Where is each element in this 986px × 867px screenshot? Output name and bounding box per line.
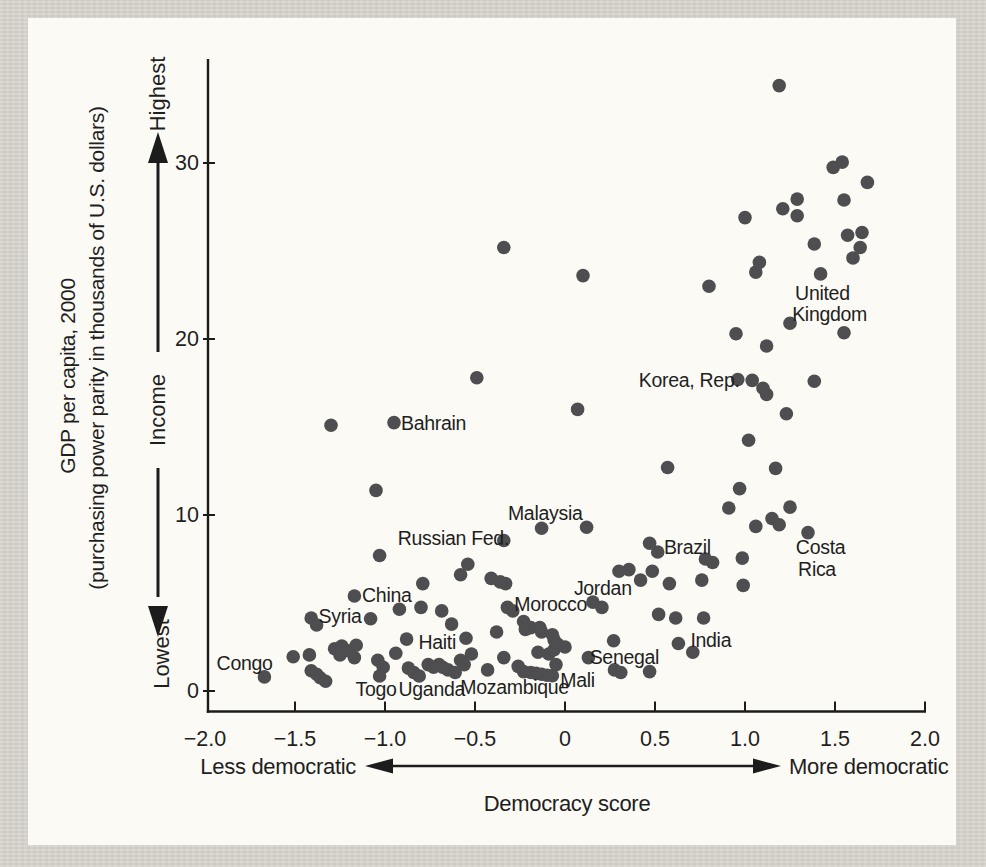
data-point — [286, 650, 300, 664]
data-point — [634, 573, 648, 587]
country-label: Mozambique — [460, 676, 569, 698]
data-point — [736, 579, 750, 593]
data-point — [459, 631, 473, 645]
x-tick-label: 0.5 — [640, 727, 670, 751]
data-point — [445, 617, 459, 631]
country-label: Costa — [796, 536, 846, 558]
data-point — [435, 604, 449, 618]
data-point — [853, 241, 867, 255]
data-point — [736, 551, 750, 565]
data-point — [760, 339, 774, 353]
data-point — [416, 577, 430, 591]
data-point — [470, 371, 484, 385]
data-point — [348, 651, 362, 665]
country-label: Togo — [355, 678, 397, 700]
data-point — [348, 589, 362, 603]
country-label: Malaysia — [508, 502, 583, 524]
country-label: Haiti — [418, 631, 456, 653]
data-point — [738, 211, 752, 225]
data-point — [595, 601, 609, 615]
y-axis-title-line2: (purchasing power parity in thousands of… — [85, 106, 108, 589]
x-tick-label: −1.0 — [364, 727, 406, 751]
x-tick-label: −1.5 — [274, 727, 316, 751]
y-tick-label: 10 — [175, 503, 199, 527]
data-point — [369, 484, 383, 498]
data-point — [753, 256, 767, 270]
data-point — [622, 563, 636, 577]
data-point — [729, 327, 743, 341]
data-point — [646, 565, 660, 579]
data-point — [837, 326, 851, 340]
data-point — [742, 433, 756, 447]
data-point — [465, 647, 479, 661]
country-label: Rica — [798, 558, 836, 580]
data-point — [364, 612, 378, 626]
data-point — [695, 573, 709, 587]
scatter-chart: 0102030 −2.0−1.5−1.0−0.500.51.01.52.0 Co… — [0, 0, 986, 867]
data-point — [663, 577, 677, 591]
x-tick-label: 1.0 — [730, 727, 760, 751]
data-point — [376, 660, 390, 674]
data-point — [303, 648, 317, 662]
data-point — [808, 237, 822, 251]
x-tick-label: 1.5 — [820, 727, 850, 751]
country-label: China — [362, 584, 412, 606]
data-point — [733, 482, 747, 496]
data-point — [702, 279, 716, 293]
country-label: Brazil — [664, 536, 711, 558]
country-label: India — [690, 629, 731, 651]
data-point — [745, 374, 759, 388]
income-arrow-mid-label: Income — [145, 374, 170, 446]
data-point — [651, 545, 665, 559]
income-arrow-top-label: Highest — [145, 57, 170, 132]
country-label: Kingdom — [792, 303, 867, 325]
data-point — [319, 675, 333, 689]
x-tick-label: 2.0 — [910, 727, 940, 751]
data-point — [861, 176, 875, 190]
data-point — [499, 577, 513, 591]
y-tick-label: 30 — [175, 151, 199, 175]
country-label: Mali — [560, 669, 595, 691]
data-point — [722, 501, 736, 515]
data-point — [783, 500, 797, 514]
y-tick-label: 20 — [175, 327, 199, 351]
data-point — [808, 374, 822, 388]
data-point — [780, 407, 794, 421]
income-arrow-bottom-label: Lowest — [149, 619, 174, 689]
data-point — [558, 640, 572, 654]
data-point — [400, 632, 414, 646]
data-point — [373, 549, 387, 563]
less-democratic-label: Less democratic — [200, 754, 356, 779]
data-point — [760, 388, 774, 402]
country-label: Senegal — [590, 646, 659, 668]
data-point — [769, 462, 783, 476]
country-label: Russian Fed. — [398, 527, 509, 549]
data-point — [772, 518, 786, 532]
x-tick-label: 0 — [559, 727, 571, 751]
country-label: Korea, Rep. — [639, 369, 740, 391]
data-point — [387, 416, 401, 430]
data-point — [461, 558, 475, 572]
country-label: Bahrain — [401, 412, 466, 434]
data-point — [414, 601, 428, 615]
data-point — [837, 193, 851, 207]
figure-page: 0102030 −2.0−1.5−1.0−0.500.51.01.52.0 Co… — [0, 0, 986, 867]
more-democratic-label: More democratic — [789, 754, 949, 779]
x-tick-label: −0.5 — [454, 727, 496, 751]
data-point — [490, 625, 504, 639]
country-label: United — [795, 282, 850, 304]
data-point — [614, 666, 628, 680]
data-point — [790, 192, 804, 206]
data-point — [790, 209, 804, 223]
data-point — [672, 637, 686, 651]
data-point — [772, 79, 786, 93]
data-point — [776, 202, 790, 216]
country-label: Uganda — [399, 678, 466, 700]
data-point — [855, 226, 869, 240]
country-label: Congo — [217, 652, 273, 674]
x-tick-label: −2.0 — [184, 727, 226, 751]
data-point — [389, 646, 403, 660]
data-point — [749, 520, 763, 534]
country-label: Jordan — [574, 577, 632, 599]
data-point — [814, 267, 828, 281]
